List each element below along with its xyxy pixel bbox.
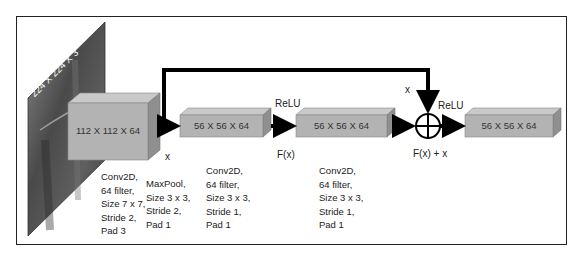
block-label: 56 X 56 X 64 xyxy=(180,120,263,131)
addition-node-icon xyxy=(416,114,440,138)
layer-params-conv3x3-a: Conv2D, 64 filter, Size 3 x 3, Stride 1,… xyxy=(206,164,250,232)
block-label: 56 X 56 X 64 xyxy=(296,120,387,131)
relu-label: ReLU xyxy=(438,99,464,112)
x-label: x xyxy=(165,150,170,163)
fx-label: F(x) xyxy=(277,148,295,161)
layer-params-maxpool: MaxPool, Size 3 x 3, Stride 2, Pad 1 xyxy=(146,177,190,231)
relu-label: ReLU xyxy=(275,97,301,110)
layer-params-conv7x7: Conv2D, 64 filter, Size 7 x 7, Stride 2,… xyxy=(101,170,145,238)
layer-params-conv3x3-b: Conv2D, 64 filter, Size 3 x 3, Stride 1,… xyxy=(319,164,363,232)
block-label: 112 X 112 X 64 xyxy=(68,125,148,136)
fx-plus-x-label: F(x) + x xyxy=(413,147,447,160)
block-label: 56 X 56 X 64 xyxy=(465,120,553,131)
skip-x-label: x xyxy=(405,83,410,96)
